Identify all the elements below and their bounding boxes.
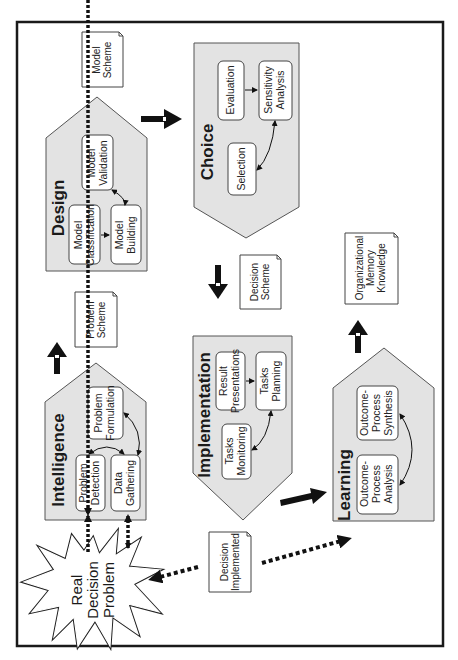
model-validation-label: Model Validation — [86, 140, 110, 185]
problem-detection-label: Problem Detection — [78, 461, 102, 505]
model-classification-label: Model Classification — [73, 204, 97, 266]
tasks-monitoring-label: Tasks Monitoring — [224, 426, 248, 475]
model-building-label: Model Building — [114, 216, 138, 253]
decision-scheme-label: Decision Scheme — [249, 263, 271, 301]
intelligence-stage-title: Intelligence — [49, 413, 68, 507]
implementation-stage-title: Implementation — [195, 352, 214, 478]
decision-implemented-label: Decision Implemented — [219, 533, 241, 591]
tasks-planning-label: Tasks Planning — [259, 361, 283, 402]
model-scheme-label: Model Scheme — [91, 42, 113, 79]
evaluation-label: Evaluation — [225, 65, 237, 114]
result-presentations-label: Result Presentations — [218, 349, 242, 413]
choice-stage-title: Choice — [198, 124, 217, 181]
data-gathering-label: Data Gathering — [113, 460, 137, 506]
outcome-process-synthesis-label: Outcome- Process Synthesis — [359, 390, 394, 436]
real-decision-problem-label: Real Decision Problem — [69, 561, 116, 619]
problem-formulation-label: Problem Formulation — [93, 385, 117, 440]
learning-stage-title: Learning — [335, 449, 354, 521]
organizational-memory-label: Organizational Memory Knowledge — [354, 236, 388, 300]
problem-scheme-label: Problem Scheme — [85, 301, 107, 338]
design-stage-title: Design — [49, 180, 68, 237]
outcome-process-analysis-label: Outcome- Process Analysis — [359, 461, 394, 507]
selection-label: Selection — [236, 147, 248, 190]
decision-process-diagram: Design Choice Intelligence Implementatio… — [0, 0, 458, 660]
sensitivity-analysis-label: Sensitivity Analysis — [263, 66, 287, 113]
